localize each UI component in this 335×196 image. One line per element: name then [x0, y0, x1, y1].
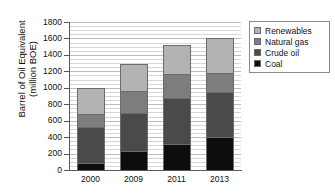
legend-item-coal[interactable]: Coal: [254, 58, 326, 69]
y-tick-label: 0: [34, 166, 62, 175]
bar-segment-crude-oil-2000: [77, 127, 105, 162]
bar-segment-coal-2009: [120, 151, 148, 170]
y-tick-label: 1400: [34, 50, 62, 59]
x-axis-tick-labels: 2000200920112013: [69, 174, 241, 188]
bar-segment-renewables-2013: [206, 38, 234, 73]
legend-swatch-icon: [254, 49, 261, 56]
legend-label: Crude oil: [265, 48, 299, 58]
bar-group-2013: [206, 22, 234, 170]
legend-swatch-icon: [254, 27, 261, 34]
bar-segment-coal-2000: [77, 163, 105, 170]
x-tick-label-2013: 2013: [198, 174, 241, 184]
y-tick-mark: [64, 121, 69, 122]
bar-segment-natural-gas-2013: [206, 73, 234, 92]
y-tick-mark: [64, 154, 69, 155]
legend-item-natural-gas[interactable]: Natural gas: [254, 36, 326, 47]
legend-swatch-icon: [254, 38, 261, 45]
y-axis-title-line1: Barrel of Oil Equivalent: [16, 20, 27, 117]
chart-legend: RenewablesNatural gasCrude oilCoal: [249, 21, 330, 73]
legend-item-renewables[interactable]: Renewables: [254, 25, 326, 36]
bar-segment-coal-2013: [206, 137, 234, 170]
y-tick-mark: [64, 38, 69, 39]
bar-group-2009: [120, 22, 148, 170]
legend-item-crude-oil[interactable]: Crude oil: [254, 47, 326, 58]
x-tick-label-2011: 2011: [155, 174, 198, 184]
legend-label: Natural gas: [265, 37, 308, 47]
y-tick-label: 1000: [34, 83, 62, 92]
bar-segment-natural-gas-2000: [77, 114, 105, 127]
bar-segment-crude-oil-2009: [120, 113, 148, 151]
stacked-bar-chart: Barrel of Oil Equivalent (million BOE) 0…: [0, 0, 335, 196]
bar-segment-renewables-2000: [77, 88, 105, 114]
x-tick-label-2000: 2000: [69, 174, 112, 184]
legend-label: Coal: [265, 59, 282, 69]
y-tick-label: 400: [34, 133, 62, 142]
bar-segment-natural-gas-2009: [120, 91, 148, 113]
bar-segment-coal-2011: [163, 144, 191, 170]
y-tick-mark: [64, 104, 69, 105]
y-tick-mark: [64, 88, 69, 89]
plot-area: [69, 22, 241, 170]
bar-group-2011: [163, 22, 191, 170]
bar-group-2000: [77, 22, 105, 170]
y-axis-line: [69, 22, 70, 171]
y-tick-mark: [64, 71, 69, 72]
bar-segment-renewables-2009: [120, 64, 148, 92]
y-axis-tick-labels: 020040060080010001200140016001800: [33, 0, 62, 196]
y-tick-label: 600: [34, 116, 62, 125]
y-tick-mark: [64, 55, 69, 56]
bar-segment-renewables-2011: [163, 45, 191, 73]
y-tick-label: 1800: [34, 18, 62, 27]
y-tick-label: 200: [34, 149, 62, 158]
x-tick-label-2009: 2009: [112, 174, 155, 184]
y-tick-mark: [64, 170, 69, 171]
y-tick-label: 1200: [34, 67, 62, 76]
x-axis-line: [69, 170, 242, 171]
y-tick-label: 800: [34, 100, 62, 109]
bar-segment-natural-gas-2011: [163, 74, 191, 99]
y-tick-label: 1600: [34, 34, 62, 43]
bar-segment-crude-oil-2013: [206, 92, 234, 137]
legend-label: Renewables: [265, 26, 312, 36]
y-tick-mark: [64, 22, 69, 23]
bar-segment-crude-oil-2011: [163, 98, 191, 143]
legend-swatch-icon: [254, 60, 261, 67]
y-tick-mark: [64, 137, 69, 138]
